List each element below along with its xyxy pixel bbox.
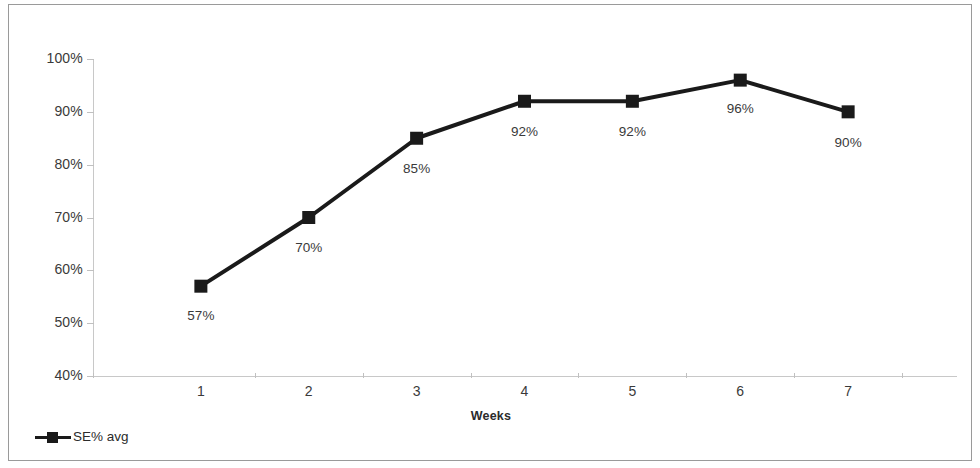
plot-area bbox=[93, 59, 956, 376]
chart-frame: 40%50%60%70%80%90%100% 1234567 Sleep Eff… bbox=[8, 4, 972, 461]
y-tick-label: 90% bbox=[13, 103, 83, 119]
legend-marker-icon bbox=[35, 430, 71, 444]
y-tick-label: 40% bbox=[13, 367, 83, 383]
y-tick-label: 70% bbox=[13, 209, 83, 225]
x-tick-label: 4 bbox=[495, 383, 555, 399]
data-point-marker bbox=[518, 95, 531, 108]
data-point-marker bbox=[194, 280, 207, 293]
x-axis-line bbox=[93, 376, 957, 377]
y-tick-label: 80% bbox=[13, 156, 83, 172]
x-tick-label: 2 bbox=[279, 383, 339, 399]
data-point-marker bbox=[410, 132, 423, 145]
data-point-label: 92% bbox=[605, 124, 659, 139]
x-axis-title: Weeks bbox=[9, 409, 973, 423]
x-tick-label: 7 bbox=[818, 383, 878, 399]
legend: SE% avg bbox=[35, 429, 129, 444]
x-tick-label: 3 bbox=[387, 383, 447, 399]
data-point-marker bbox=[626, 95, 639, 108]
y-tick-label: 100% bbox=[13, 50, 83, 66]
series-line-se-avg bbox=[93, 59, 956, 376]
data-point-marker bbox=[302, 211, 315, 224]
x-tick-label: 5 bbox=[602, 383, 662, 399]
data-point-label: 70% bbox=[282, 240, 336, 255]
data-point-label: 85% bbox=[390, 161, 444, 176]
data-point-marker bbox=[734, 74, 747, 87]
data-point-label: 57% bbox=[174, 308, 228, 323]
y-tick-label: 60% bbox=[13, 261, 83, 277]
y-tick-label: 50% bbox=[13, 314, 83, 330]
legend-label: SE% avg bbox=[71, 429, 129, 444]
x-tick-label: 1 bbox=[171, 383, 231, 399]
x-tick-label: 6 bbox=[710, 383, 770, 399]
data-point-label: 92% bbox=[498, 124, 552, 139]
data-point-label: 96% bbox=[713, 101, 767, 116]
data-point-label: 90% bbox=[821, 135, 875, 150]
data-point-marker bbox=[842, 105, 855, 118]
